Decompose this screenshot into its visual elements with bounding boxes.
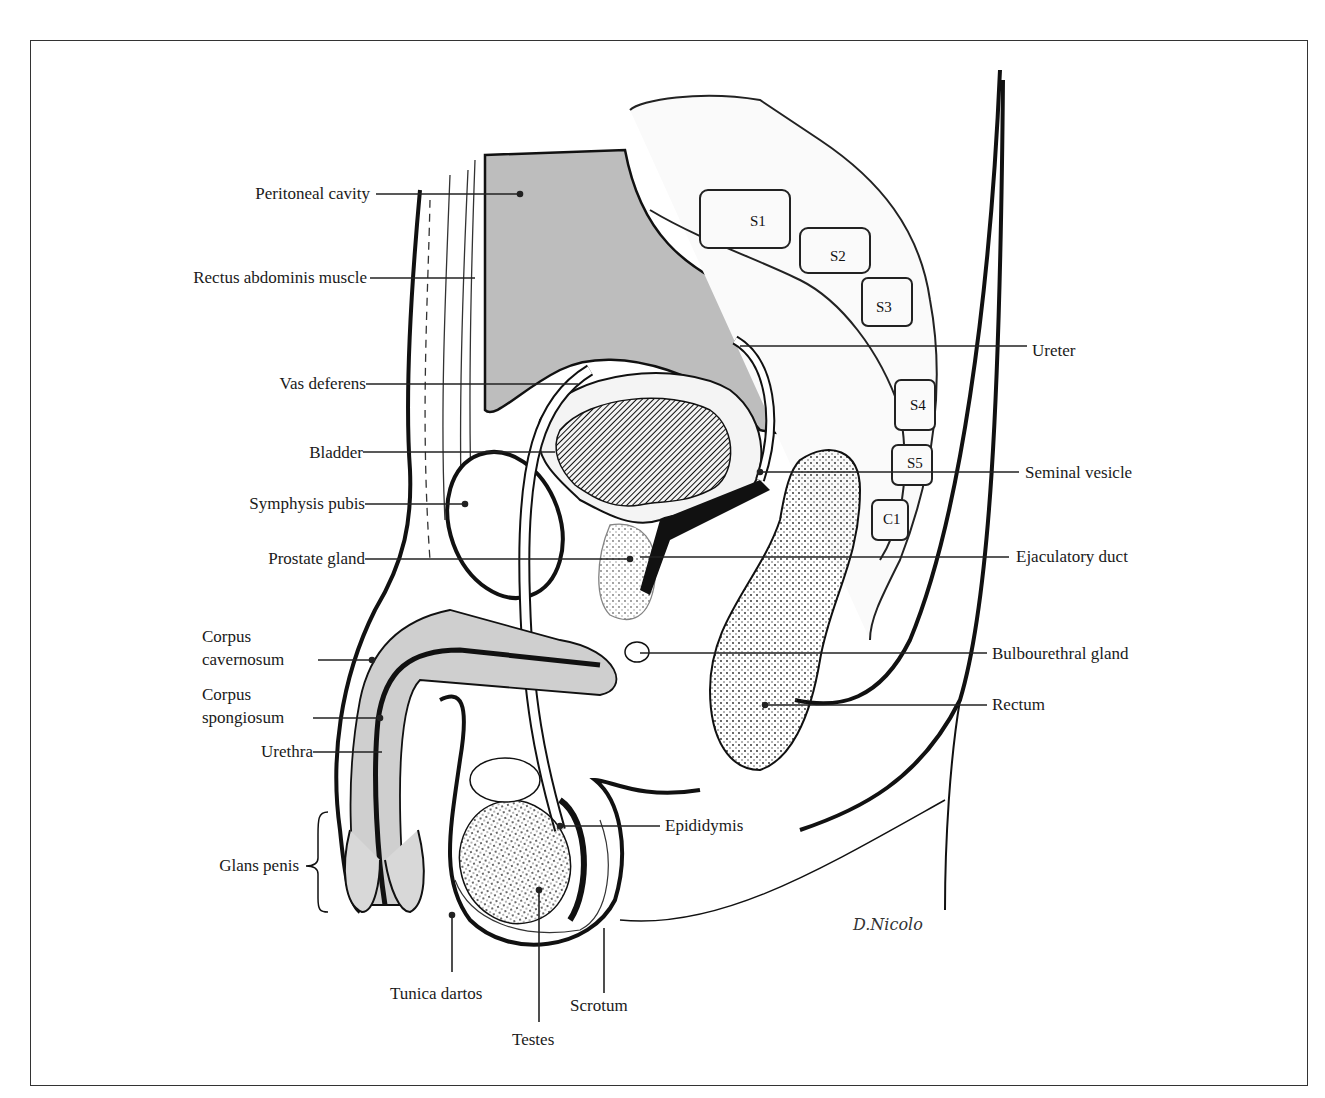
label-symphysis-pubis: Symphysis pubis	[249, 494, 365, 514]
label-prostate-gland: Prostate gland	[268, 549, 365, 569]
label-tunica-dartos: Tunica dartos	[390, 984, 482, 1004]
label-glans-penis: Glans penis	[219, 856, 299, 876]
scrotum	[440, 697, 700, 945]
label-ejaculatory-duct: Ejaculatory duct	[1016, 547, 1128, 567]
label-seminal-vesicle: Seminal vesicle	[1025, 463, 1132, 483]
label-corpus-cavernosum-line2: cavernosum	[202, 650, 284, 670]
vertebra-s3: S3	[876, 299, 892, 315]
glans-bracket	[306, 812, 328, 912]
label-corpus-spongiosum-line2: spongiosum	[202, 708, 284, 728]
label-corpus-cavernosum-line1: Corpus	[202, 627, 251, 647]
label-bladder: Bladder	[309, 443, 363, 463]
vertebra-s5: S5	[907, 455, 923, 471]
vertebra-s2: S2	[830, 248, 846, 264]
label-testes: Testes	[512, 1030, 554, 1050]
vertebra-s4: S4	[910, 397, 926, 413]
vertebra-c1: C1	[883, 511, 901, 527]
label-corpus-spongiosum-line1: Corpus	[202, 685, 251, 705]
label-rectum: Rectum	[992, 695, 1045, 715]
artist-signature: D.Nicolo	[853, 915, 923, 934]
label-epididymis: Epididymis	[665, 816, 743, 836]
label-scrotum: Scrotum	[570, 996, 628, 1016]
bulbourethral-gland-shape	[625, 642, 649, 662]
label-rectus-abdominis-muscle: Rectus abdominis muscle	[193, 268, 367, 288]
vertebra-s1: S1	[750, 213, 766, 229]
label-vas-deferens: Vas deferens	[280, 374, 366, 394]
label-urethra: Urethra	[261, 742, 313, 762]
label-bulbourethral-gland: Bulbourethral gland	[992, 644, 1128, 664]
label-peritoneal-cavity: Peritoneal cavity	[255, 184, 370, 204]
label-ureter: Ureter	[1032, 341, 1075, 361]
